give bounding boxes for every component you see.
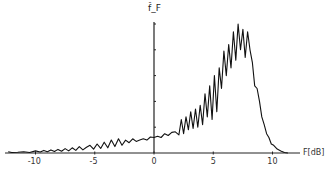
data-series-line: [8, 24, 288, 153]
x-tick-label: 0: [151, 157, 156, 166]
y-axis: [154, 22, 156, 153]
line-chart: [0, 0, 329, 169]
y-axis-label: f̂_F: [148, 3, 161, 13]
x-tick-label: 5: [211, 157, 216, 166]
x-axis-label: F[dB]: [303, 148, 324, 157]
x-tick-label: 10: [267, 157, 277, 166]
x-tick-label: -5: [90, 157, 98, 166]
x-axis: [5, 152, 300, 155]
x-tick-label: -10: [28, 157, 41, 166]
